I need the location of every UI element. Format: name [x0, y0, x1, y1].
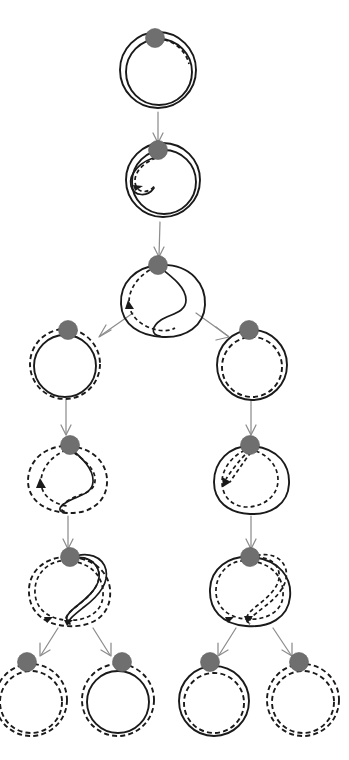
basepoint-dot: [61, 436, 80, 455]
basepoint-dot: [149, 141, 168, 160]
basepoint-dot: [146, 29, 165, 48]
basepoint-dot: [201, 653, 220, 672]
basepoint-dot: [113, 653, 132, 672]
basepoint-dot: [149, 256, 168, 275]
basepoint-dot: [61, 548, 80, 567]
basepoint-dot: [241, 436, 260, 455]
basepoint-dot: [241, 548, 260, 567]
basepoint-dot: [290, 653, 309, 672]
basepoint-dot: [240, 321, 259, 340]
figure-root: [0, 0, 349, 760]
loop-homotopy-tree-diagram: [0, 0, 349, 760]
basepoint-dot: [59, 321, 78, 340]
basepoint-dot: [18, 653, 37, 672]
canvas-background: [0, 0, 349, 760]
